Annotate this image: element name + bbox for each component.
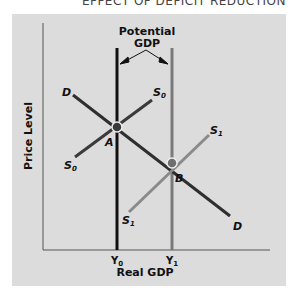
demand-label-bottom: D xyxy=(233,220,242,233)
y-axis-label: Price Level xyxy=(22,102,35,170)
equilibrium-point-b xyxy=(167,158,177,168)
x-axis-label: Real GDP xyxy=(116,266,173,279)
supply0-label-top: S0 xyxy=(153,86,166,100)
supply1-label-top: S1 xyxy=(210,124,223,138)
point-b-label: B xyxy=(175,172,183,185)
supply1-label-bottom: S1 xyxy=(122,214,135,228)
potential-gdp-arrows xyxy=(120,50,168,64)
point-a-label: A xyxy=(104,136,114,149)
potential-gdp-label-line2: GDP xyxy=(134,37,160,50)
equilibrium-point-a xyxy=(112,122,122,132)
demand-curve xyxy=(73,95,230,216)
supply0-label-bottom: S0 xyxy=(64,159,77,173)
ad-as-diagram: Potential GDP D D S0 S0 S1 S1 A B Y0 Y1 … xyxy=(0,0,300,301)
demand-label-top: D xyxy=(62,86,71,99)
